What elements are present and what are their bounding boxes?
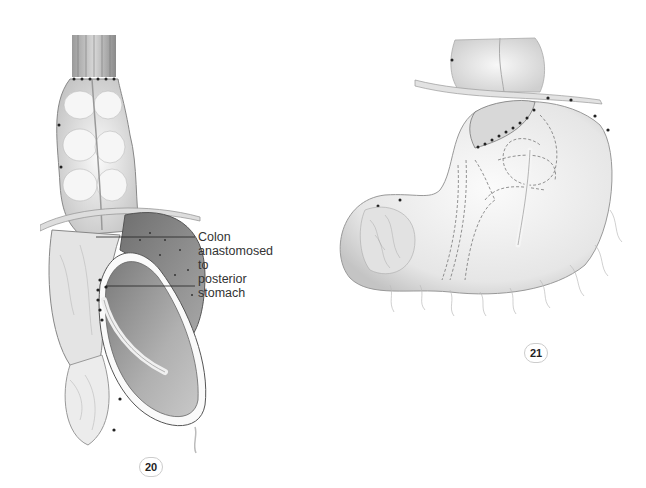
figure-number-badge: 20 (139, 457, 163, 477)
figure-21-illustration (330, 30, 630, 320)
callout-line-4: posterior (198, 272, 247, 286)
callout-line-5: stomach (198, 286, 245, 300)
figure-number-badge: 21 (524, 343, 548, 363)
callout-line-2: anastomosed (198, 244, 273, 258)
callout-line-1: Colon (198, 230, 231, 244)
callout-line-3: to (198, 258, 208, 272)
